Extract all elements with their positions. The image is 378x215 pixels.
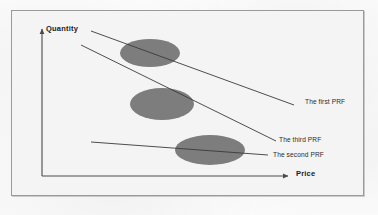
- figure-root: Quantity Price The first PRF The third P…: [0, 0, 378, 215]
- third-prf-line: [81, 45, 276, 141]
- first-prf-label: The first PRF: [305, 98, 345, 105]
- second-prf-label: The second PRF: [273, 151, 324, 158]
- lower-cluster-ellipse: [175, 135, 245, 165]
- upper-cluster-ellipse: [120, 39, 180, 67]
- middle-cluster-ellipse: [130, 88, 194, 120]
- third-prf-label: The third PRF: [279, 136, 321, 143]
- x-axis-label: Price: [296, 169, 315, 178]
- first-prf-line: [91, 31, 294, 105]
- y-axis-label: Quantity: [46, 24, 78, 33]
